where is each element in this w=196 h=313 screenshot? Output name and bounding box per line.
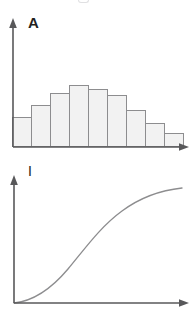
histogram-chart: A xyxy=(0,0,196,158)
ogive-panel: I xyxy=(0,155,196,313)
table-row xyxy=(89,90,108,147)
ogive-chart: I xyxy=(0,155,196,313)
histogram-y-axis-arrow-icon xyxy=(9,18,17,28)
table-row xyxy=(32,106,51,147)
histogram-bars xyxy=(13,86,184,147)
table-row xyxy=(127,111,146,147)
ogive-x-axis-arrow-icon xyxy=(179,299,189,307)
ogive-y-axis-arrow-icon xyxy=(10,175,18,185)
table-row xyxy=(146,124,165,147)
cumulative-curve xyxy=(14,188,182,303)
table-row xyxy=(108,96,127,147)
ogive-axis-label: I xyxy=(28,163,32,179)
histogram-panel: A xyxy=(0,0,196,158)
figure-root: A I xyxy=(0,0,196,313)
histogram-axis-label: A xyxy=(28,14,39,31)
ogive-axes xyxy=(10,175,189,307)
table-row xyxy=(13,118,32,147)
table-row xyxy=(51,94,70,147)
table-row xyxy=(70,86,89,147)
